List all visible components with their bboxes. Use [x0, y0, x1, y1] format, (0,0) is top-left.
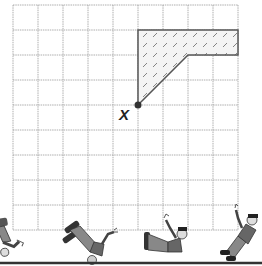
tumbling-person-4	[220, 204, 258, 261]
point-x-label: X	[118, 106, 130, 123]
tumbling-person-3	[144, 214, 187, 252]
tumbling-person-1	[0, 215, 25, 257]
diagram-canvas: X	[0, 0, 262, 266]
point-x-dot	[135, 102, 142, 109]
tumbling-person-2	[62, 220, 118, 265]
